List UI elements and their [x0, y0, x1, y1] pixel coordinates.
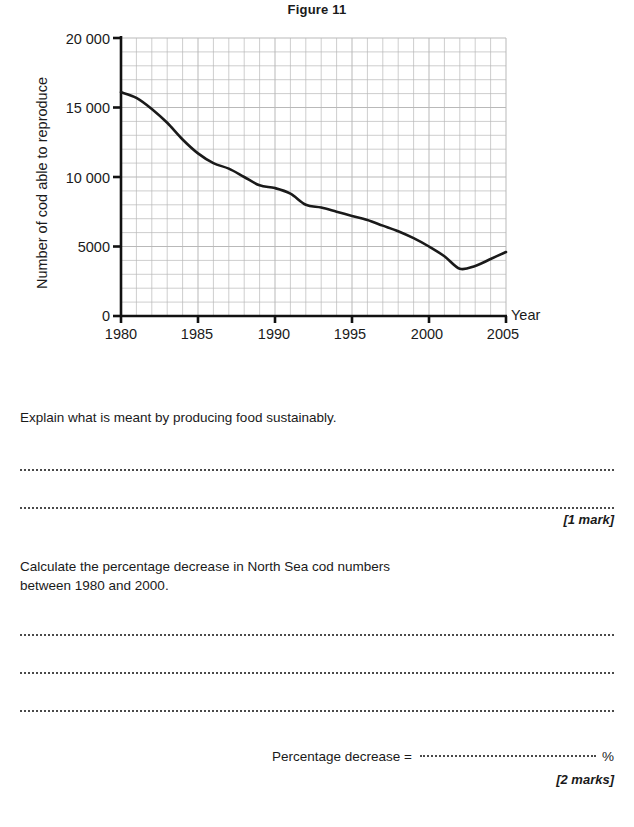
answer-line[interactable]: [20, 467, 614, 471]
figure-title: Figure 11: [0, 2, 634, 17]
question-1-marks: [1 mark]: [563, 512, 614, 527]
percentage-decrease-answer-row: Percentage decrease =%: [0, 749, 614, 764]
chart-gridlines: [121, 38, 506, 316]
question-1-prompt: Explain what is meant by producing food …: [20, 408, 336, 427]
percentage-decrease-input[interactable]: [420, 755, 596, 757]
question-2-marks: [2 marks]: [556, 772, 614, 787]
percentage-decrease-unit: %: [602, 749, 614, 764]
figure-11-chart: Number of cod able to reproduce 20 000 1…: [0, 20, 634, 380]
answer-line[interactable]: [20, 670, 614, 674]
chart-canvas: [0, 20, 634, 380]
data-series-line: [121, 92, 506, 269]
percentage-decrease-label: Percentage decrease =: [272, 749, 412, 764]
answer-line[interactable]: [20, 708, 614, 712]
question-2-prompt: Calculate the percentage decrease in Nor…: [20, 557, 390, 595]
answer-line[interactable]: [20, 632, 614, 636]
chart-axes: [113, 36, 507, 323]
answer-line[interactable]: [20, 505, 614, 509]
